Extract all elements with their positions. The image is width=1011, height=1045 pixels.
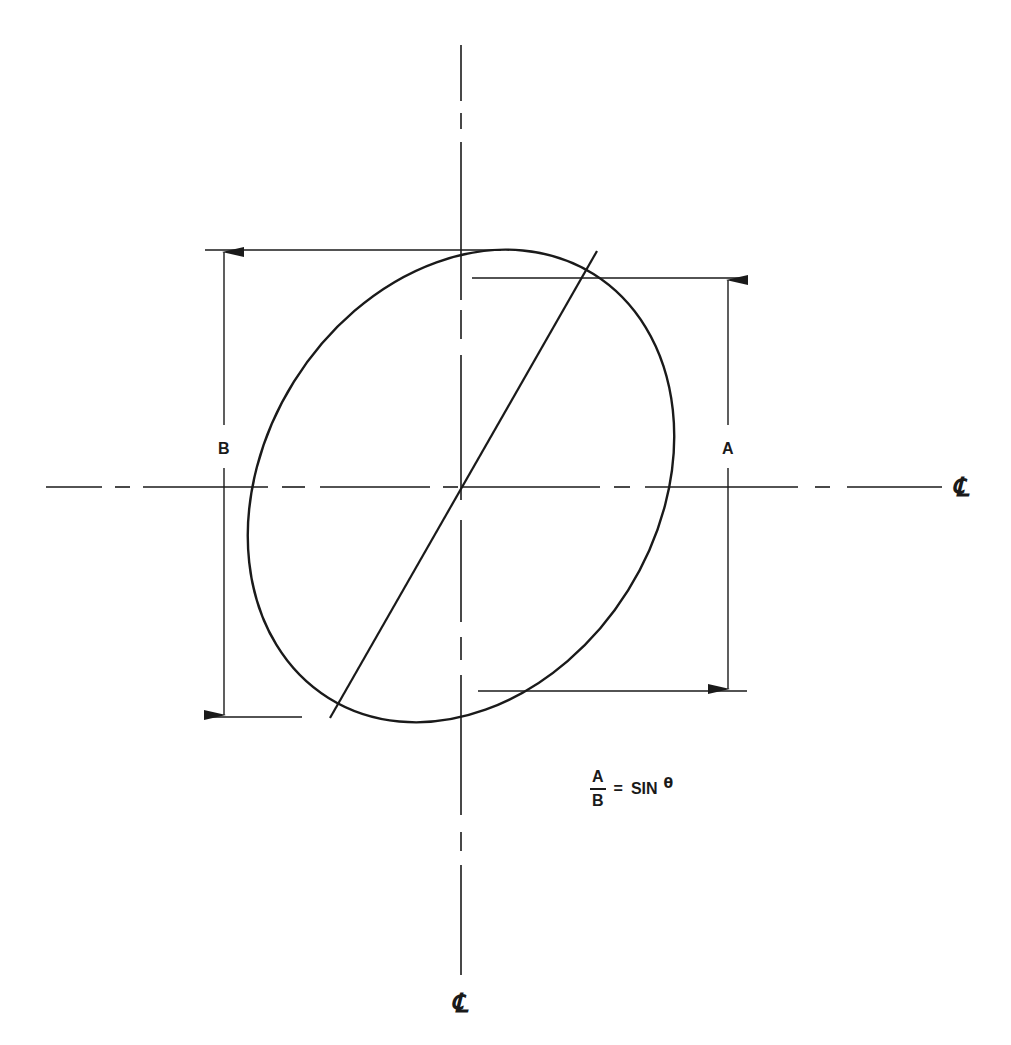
formula-theta: θ: [664, 775, 674, 791]
dimension-a-label: A: [722, 441, 734, 457]
diagram-canvas: [0, 0, 1011, 1045]
phase-formula: A B = SIN θ: [590, 768, 673, 810]
ellipse-chord: [330, 251, 597, 718]
centerline-symbol-horizontal: ℄: [952, 474, 969, 500]
formula-fraction: A B: [590, 768, 606, 810]
formula-numerator: A: [590, 768, 606, 790]
centerline-symbol-vertical: ℄: [451, 990, 468, 1016]
formula-denominator: B: [592, 790, 604, 810]
formula-function: SIN: [631, 780, 658, 798]
formula-equals: =: [614, 780, 623, 798]
dimension-b-label: B: [218, 441, 230, 457]
